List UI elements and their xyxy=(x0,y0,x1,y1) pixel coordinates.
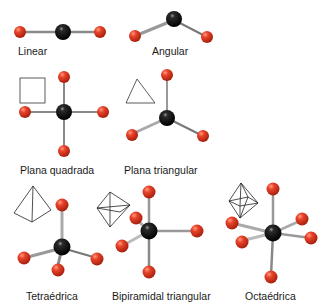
octahedron-shape-icon xyxy=(229,183,258,218)
ligand-atom xyxy=(94,26,106,38)
linear-molecule xyxy=(14,24,106,40)
label-trigonal-planar: Plana triangular xyxy=(124,164,198,176)
label-tetrahedral: Tetraédrica xyxy=(26,290,78,302)
central-atom xyxy=(55,24,71,40)
trigonal-planar-molecule xyxy=(126,69,209,142)
bipyramid-shape-icon xyxy=(97,192,130,227)
label-linear: Linear xyxy=(18,45,47,57)
square-shape-icon xyxy=(20,78,45,103)
trigonal-bipyramidal-molecule xyxy=(97,186,204,279)
angular-molecule xyxy=(129,11,213,43)
ligand-atom xyxy=(14,26,26,38)
tetrahedron-shape-icon xyxy=(14,186,51,222)
label-octahedral: Octaédrica xyxy=(245,290,296,302)
label-square-planar: Plana quadrada xyxy=(20,164,94,176)
octahedral-molecule xyxy=(226,183,318,284)
tetrahedral-molecule xyxy=(14,186,104,277)
square-planar-molecule xyxy=(19,71,109,157)
label-angular: Angular xyxy=(152,45,188,57)
label-trigonal-bipyramidal: Bipiramidal triangular xyxy=(112,290,211,302)
triangle-shape-icon xyxy=(126,79,155,103)
